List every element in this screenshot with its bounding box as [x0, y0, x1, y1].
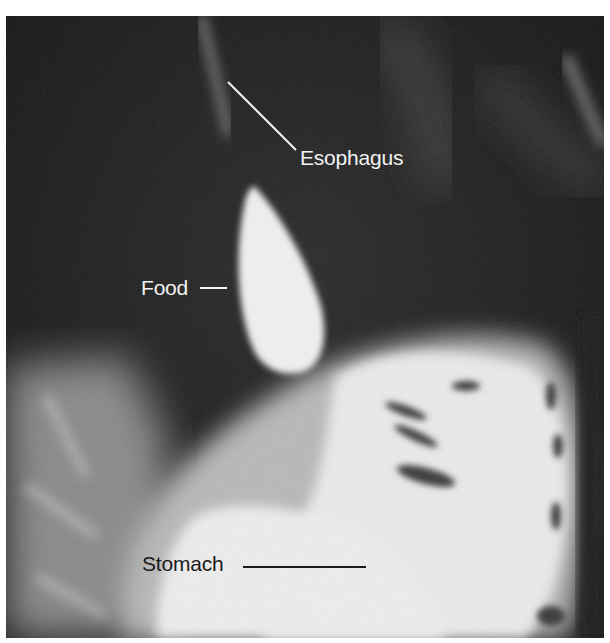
- stomach-label: Stomach: [142, 553, 223, 575]
- xray-image-frame: Esophagus Food Stomach: [6, 16, 604, 638]
- esophagus-label: Esophagus: [300, 147, 403, 169]
- food-label: Food: [141, 277, 188, 299]
- esophagus-leader-line: [6, 16, 604, 638]
